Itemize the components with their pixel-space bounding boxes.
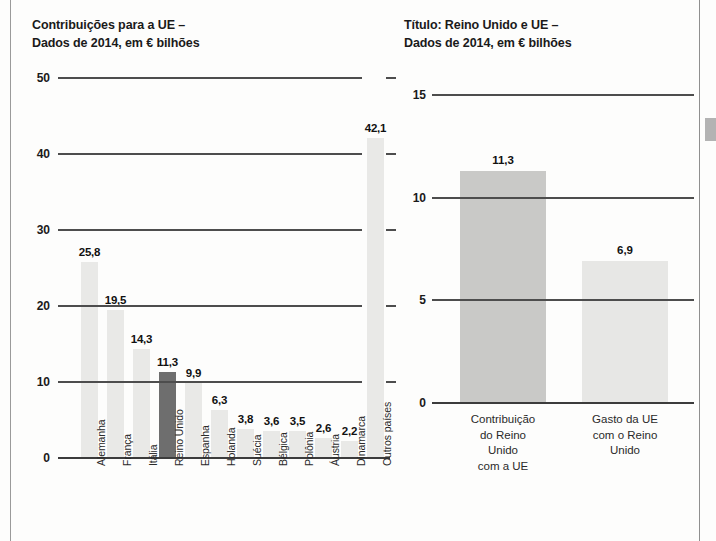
bar-value-label: 3,8 xyxy=(238,413,253,425)
bar-value-label: 3,6 xyxy=(264,415,279,427)
bar-value-label: 11,3 xyxy=(157,356,178,368)
x-axis-category-label: Holanda xyxy=(225,428,237,466)
bar xyxy=(582,261,668,403)
left-gridline-stub xyxy=(386,77,396,79)
right-gridline xyxy=(432,197,694,199)
x-axis-category-label: Polônia xyxy=(303,432,315,466)
bar-value-label: 19,5 xyxy=(105,294,127,306)
left-gridline xyxy=(58,229,362,231)
bar-value-label: 42,1 xyxy=(365,122,387,134)
left-gridline-stub xyxy=(386,381,396,383)
right-y-tick-label: 5 xyxy=(404,293,426,307)
left-gridline xyxy=(58,305,362,307)
left-gridline xyxy=(58,381,362,383)
x-axis-category-label: Bélgica xyxy=(277,432,289,466)
right-gridline xyxy=(432,94,694,96)
page-frame: Contribuições para a UE – Dados de 2014,… xyxy=(0,0,716,541)
left-gridline xyxy=(58,77,362,79)
left-border-rule xyxy=(10,0,11,541)
bar xyxy=(460,171,546,403)
x-axis-category-label: Itália xyxy=(147,444,159,466)
bar-value-label: 6,3 xyxy=(212,394,227,406)
bar-value-label: 25,8 xyxy=(79,246,101,258)
right-y-tick-label: 0 xyxy=(404,396,426,410)
right-chart-title: Título: Reino Unido e UE – Dados de 2014… xyxy=(404,16,572,52)
left-y-tick-label: 0 xyxy=(24,451,50,465)
right-gridline xyxy=(432,299,694,301)
x-axis-category-label: Outros países xyxy=(381,402,393,466)
left-y-tick-label: 10 xyxy=(24,375,50,389)
x-axis-category-label: França xyxy=(121,434,133,466)
left-bars-layer: 25,819,514,311,39,96,33,83,63,52,62,242,… xyxy=(58,68,384,463)
bar-value-label: 2,6 xyxy=(316,422,331,434)
right-bars-layer: 11,36,9 xyxy=(432,84,696,409)
left-plot-area: 25,819,514,311,39,96,33,83,63,52,62,242,… xyxy=(24,68,384,463)
x-axis-category-label: Espanha xyxy=(199,425,211,466)
left-y-tick-label: 20 xyxy=(24,299,50,313)
left-gridline-stub xyxy=(386,153,396,155)
left-y-tick-label: 30 xyxy=(24,223,50,237)
right-edge-marker xyxy=(705,118,716,141)
x-axis-category-label: Contribuição do Reino Unido com a UE xyxy=(452,412,554,474)
right-y-tick-label: 15 xyxy=(404,88,426,102)
left-gridline-stub xyxy=(386,229,396,231)
x-axis-category-label: Reino Unido xyxy=(173,409,185,466)
left-y-tick-label: 40 xyxy=(24,147,50,161)
right-border-rule xyxy=(699,0,700,541)
left-chart-title: Contribuições para a UE – Dados de 2014,… xyxy=(32,16,200,52)
left-gridline xyxy=(58,153,362,155)
bar-value-label: 11,3 xyxy=(492,154,514,166)
left-gridline-stub xyxy=(386,305,396,307)
bar-value-label: 3,5 xyxy=(290,415,305,427)
x-axis-category-label: Alemanha xyxy=(95,420,107,466)
x-axis-category-label: Dinamarca xyxy=(355,416,367,466)
x-axis-category-label: Áustria xyxy=(329,434,341,466)
x-axis-category-label: Suécia xyxy=(251,434,263,466)
bar-value-label: 9,9 xyxy=(186,367,201,379)
bar-value-label: 6,9 xyxy=(617,244,633,256)
right-axis-baseline xyxy=(432,402,694,404)
bar-value-label: 14,3 xyxy=(131,333,153,345)
bar xyxy=(133,349,150,458)
x-axis-category-label: Gasto da UE com o Reino Unido xyxy=(574,412,676,459)
right-y-tick-label: 10 xyxy=(404,191,426,205)
left-y-tick-label: 50 xyxy=(24,71,50,85)
right-plot-area: 11,36,9 051015Contribuição do Reino Unid… xyxy=(404,84,696,409)
